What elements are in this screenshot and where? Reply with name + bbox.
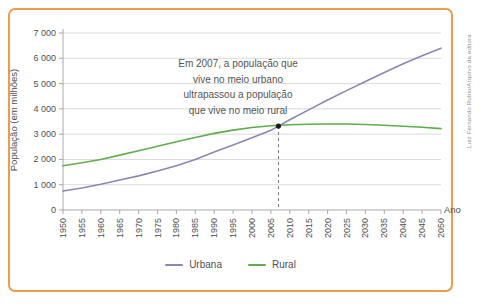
annotation-line: ultrapassou a população	[150, 87, 326, 103]
credit-text: Luiz Fernando Rubio/Arquivo da editora	[466, 34, 472, 148]
svg-text:1980: 1980	[171, 218, 181, 238]
svg-text:1950: 1950	[58, 218, 68, 238]
legend-swatch	[248, 264, 266, 266]
svg-text:2000: 2000	[247, 218, 257, 238]
svg-text:2020: 2020	[323, 218, 333, 238]
svg-text:5 000: 5 000	[33, 79, 56, 89]
annotation-line: que vive no meio rural	[150, 103, 326, 119]
svg-text:2030: 2030	[360, 218, 370, 238]
svg-text:1970: 1970	[134, 218, 144, 238]
svg-text:2015: 2015	[304, 218, 314, 238]
svg-text:1 000: 1 000	[33, 180, 56, 190]
annotation-line: vive no meio urbano	[150, 72, 326, 88]
svg-text:2005: 2005	[266, 218, 276, 238]
annotation-line: Em 2007, a população que	[150, 56, 326, 72]
y-axis-title: População (em milhões)	[8, 34, 19, 206]
svg-text:2010: 2010	[285, 218, 295, 238]
legend-label: Urbana	[189, 259, 222, 270]
svg-text:2025: 2025	[342, 218, 352, 238]
svg-text:1965: 1965	[115, 218, 125, 238]
legend-label: Rural	[272, 259, 296, 270]
chart-annotation: Em 2007, a população que vive no meio ur…	[150, 56, 326, 118]
svg-text:4 000: 4 000	[33, 104, 56, 114]
svg-text:1995: 1995	[228, 218, 238, 238]
svg-text:3 000: 3 000	[33, 129, 56, 139]
svg-text:1955: 1955	[77, 218, 87, 238]
legend-item-urbana: Urbana	[165, 259, 222, 270]
svg-text:2035: 2035	[379, 218, 389, 238]
svg-text:1960: 1960	[96, 218, 106, 238]
svg-text:1985: 1985	[190, 218, 200, 238]
svg-text:1990: 1990	[209, 218, 219, 238]
svg-text:2050: 2050	[436, 218, 446, 238]
svg-text:1975: 1975	[153, 218, 163, 238]
svg-text:2040: 2040	[398, 218, 408, 238]
legend-item-rural: Rural	[248, 259, 296, 270]
legend: Urbana Rural	[8, 259, 453, 270]
svg-text:0: 0	[51, 205, 56, 215]
svg-text:2 000: 2 000	[33, 154, 56, 164]
svg-text:7 000: 7 000	[33, 28, 56, 38]
svg-text:6 000: 6 000	[33, 53, 56, 63]
svg-text:2045: 2045	[417, 218, 427, 238]
legend-swatch	[165, 264, 183, 266]
x-axis-title: Ano	[444, 204, 461, 215]
